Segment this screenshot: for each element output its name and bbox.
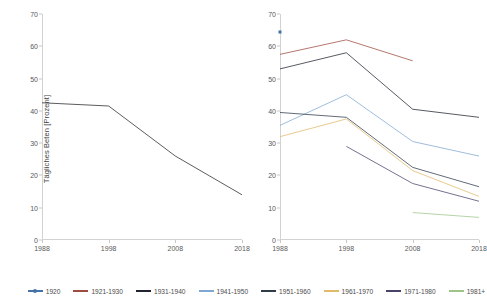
legend-item[interactable]: 1981+ <box>449 288 486 295</box>
legend-item-label: 1931-1940 <box>154 288 186 295</box>
legend-swatch <box>28 290 43 292</box>
y-tick-mark <box>277 78 280 79</box>
x-tick-label: 2018 <box>234 245 250 252</box>
chart-legend: 19201921-19301931-19401941-19501951-1960… <box>0 280 487 302</box>
y-tick-mark <box>277 46 280 47</box>
y-tick-mark <box>277 207 280 208</box>
x-tick-mark <box>109 240 110 243</box>
y-tick-mark <box>39 207 42 208</box>
line-series-right <box>280 14 479 240</box>
x-tick-mark <box>242 240 243 243</box>
x-tick-label: 1998 <box>339 245 355 252</box>
series-line <box>280 40 413 61</box>
legend-swatch <box>261 290 276 292</box>
y-tick-mark <box>39 46 42 47</box>
legend-item-label: 1961-1970 <box>342 288 374 295</box>
chart-panels: Tägliches Beten [Prozent] 01020304050607… <box>0 0 487 278</box>
legend-item-label: 1921-1930 <box>91 288 123 295</box>
x-tick-mark <box>280 240 281 243</box>
legend-swatch <box>449 290 464 292</box>
y-tick-mark <box>39 14 42 15</box>
series-line <box>280 53 479 118</box>
series-line <box>42 103 242 195</box>
line-series-left <box>42 14 242 240</box>
series-line <box>280 95 479 156</box>
x-tick-label: 2008 <box>405 245 421 252</box>
legend-swatch <box>386 290 401 292</box>
legend-swatch <box>199 290 214 292</box>
plot-area-right: 0102030405060701988199820082018 <box>280 14 479 240</box>
y-tick-mark <box>277 175 280 176</box>
legend-item-label: 1951-1960 <box>279 288 311 295</box>
y-tick-mark <box>39 78 42 79</box>
y-tick-mark <box>277 14 280 15</box>
legend-item-label: 1981+ <box>467 288 486 295</box>
x-tick-label: 1998 <box>101 245 117 252</box>
x-tick-mark <box>346 240 347 243</box>
legend-item[interactable]: 1921-1930 <box>73 288 123 295</box>
x-tick-mark <box>413 240 414 243</box>
x-tick-label: 1988 <box>34 245 50 252</box>
series-line <box>413 213 479 218</box>
series-line <box>346 146 479 201</box>
legend-item[interactable]: 1971-1980 <box>386 288 436 295</box>
plot-area-left: 0102030405060701988199820082018 <box>42 14 242 240</box>
x-tick-label: 2018 <box>471 245 487 252</box>
chart-panel-right: 0102030405060701988199820082018 <box>250 0 487 278</box>
y-tick-mark <box>39 175 42 176</box>
legend-item-label: 1920 <box>46 288 61 295</box>
x-tick-mark <box>175 240 176 243</box>
series-line <box>280 119 479 196</box>
y-tick-mark <box>39 143 42 144</box>
series-marker <box>279 30 282 33</box>
legend-swatch <box>136 290 151 292</box>
x-tick-mark <box>42 240 43 243</box>
legend-item[interactable]: 1920 <box>28 288 61 295</box>
legend-swatch <box>73 290 88 292</box>
x-tick-label: 2008 <box>168 245 184 252</box>
legend-item-label: 1971-1980 <box>404 288 436 295</box>
x-tick-label: 1988 <box>272 245 288 252</box>
y-tick-mark <box>277 110 280 111</box>
legend-item[interactable]: 1961-1970 <box>324 288 374 295</box>
legend-item[interactable]: 1941-1950 <box>199 288 249 295</box>
legend-item[interactable]: 1951-1960 <box>261 288 311 295</box>
chart-figure: Tägliches Beten [Prozent] 01020304050607… <box>0 0 487 304</box>
x-tick-mark <box>479 240 480 243</box>
legend-swatch <box>324 290 339 292</box>
y-tick-mark <box>39 110 42 111</box>
legend-item-label: 1941-1950 <box>217 288 249 295</box>
legend-item[interactable]: 1931-1940 <box>136 288 186 295</box>
y-tick-mark <box>277 143 280 144</box>
chart-panel-left: Tägliches Beten [Prozent] 01020304050607… <box>0 0 250 278</box>
